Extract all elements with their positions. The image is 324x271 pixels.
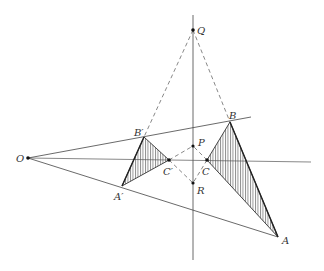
diagram-canvas: O Q P R B B′ C′ C A′ A xyxy=(0,0,324,271)
label-q: Q xyxy=(197,25,205,36)
label-b: B xyxy=(228,110,236,121)
point-markers xyxy=(26,28,209,184)
label-c: C xyxy=(202,166,210,177)
point-c xyxy=(205,158,209,162)
point-p xyxy=(191,144,194,147)
label-a-prime: A′ xyxy=(113,191,124,202)
point-r xyxy=(191,181,194,184)
label-c-prime: C′ xyxy=(163,166,174,177)
triangle-a-prime-b-prime-c-prime xyxy=(122,137,169,186)
point-c-prime xyxy=(167,158,171,162)
triangle-abc xyxy=(207,122,278,237)
label-r: R xyxy=(196,185,205,196)
label-o: O xyxy=(16,153,24,164)
label-a: A xyxy=(281,235,289,246)
point-o xyxy=(26,156,30,160)
point-q xyxy=(191,28,195,32)
label-p: P xyxy=(197,137,205,148)
label-b-prime: B′ xyxy=(133,127,144,138)
